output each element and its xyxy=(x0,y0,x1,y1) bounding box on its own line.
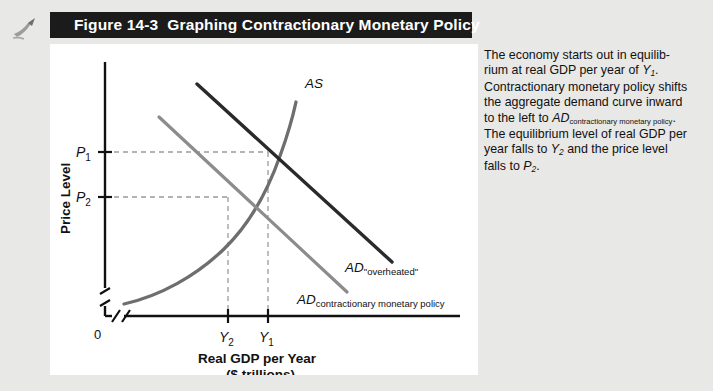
caption-line-7: equilibrium level of real GDP per xyxy=(509,127,687,141)
y-tick-label-p2: P2 xyxy=(76,189,91,208)
caption-line-8-pre: year falls to xyxy=(484,142,551,156)
caption-var-y2: Y xyxy=(551,142,559,156)
figure-caption: The economy starts out in equilib- rium … xyxy=(484,48,690,175)
caption-line-3: Contractionary monetary policy xyxy=(484,80,655,94)
caption-var-p2: P xyxy=(523,159,531,173)
x-axis-title: Real GDP per Year xyxy=(198,351,317,366)
x-tick-label-y2: Y2 xyxy=(219,329,234,348)
page-title: Figure 14-3 Graphing Contractionary Mone… xyxy=(50,16,480,34)
curve-as xyxy=(124,102,296,304)
curve-label-ad-contractionary: ADcontractionary monetary policy xyxy=(296,292,445,309)
figure-number: Figure 14-3 xyxy=(74,16,158,33)
caption-sub-ad: contractionary monetary policy xyxy=(569,117,672,126)
caption-line-9-post: . xyxy=(536,159,539,173)
y-tick-label-p1: P1 xyxy=(76,144,91,163)
figure-marker-icon xyxy=(8,14,48,44)
caption-var-ad: AD xyxy=(552,111,569,125)
caption-line-9-pre: falls to xyxy=(484,159,523,173)
caption-sub-y1: 1 xyxy=(650,68,655,78)
x-axis-subtitle: ($ trillions) xyxy=(226,367,295,375)
y-axis-title: Price Level xyxy=(58,163,73,234)
aggregate-demand-supply-chart: P1 P2 Y2 Y1 0 Price Level Real GDP per Y… xyxy=(50,44,478,375)
caption-line-8-post: and the price level xyxy=(564,142,668,156)
chart-panel: P1 P2 Y2 Y1 0 Price Level Real GDP per Y… xyxy=(50,44,478,375)
figure-title-bar: Figure 14-3 Graphing Contractionary Mone… xyxy=(50,12,472,38)
x-axis-break-icon xyxy=(112,310,130,322)
curve-label-ad-overheated: AD"overheated" xyxy=(344,260,418,277)
caption-line-2-pre: rium at real GDP per year of xyxy=(484,63,642,77)
figure-title: Graphing Contractionary Monetary Policy xyxy=(167,16,479,33)
y-axis-break-icon xyxy=(100,288,110,306)
curve-label-as: AS xyxy=(304,76,323,91)
origin-label: 0 xyxy=(94,327,101,342)
curve-ad-contractionary xyxy=(159,117,347,292)
x-tick-label-y1: Y1 xyxy=(259,329,274,348)
caption-line-1: The economy starts out in equilib- xyxy=(484,48,670,62)
caption-sub-p2: 2 xyxy=(532,164,537,174)
caption-sub-y2: 2 xyxy=(559,147,564,157)
caption-line-2-post: . xyxy=(655,63,658,77)
